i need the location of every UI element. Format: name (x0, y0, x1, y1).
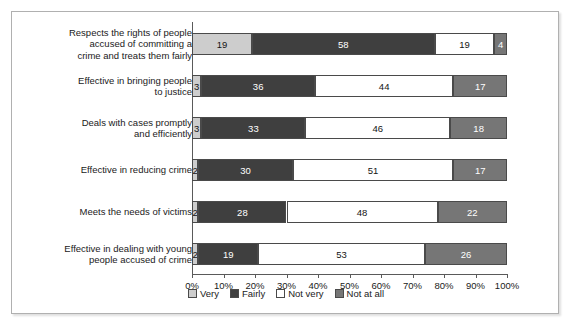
chart-frame: Respects the rights of people accused of… (11, 11, 559, 314)
x-axis-tick (255, 274, 256, 278)
bar-value-label: 2 (193, 165, 198, 176)
bar-segment: 22 (438, 201, 507, 223)
bar-value-label: 4 (498, 39, 503, 50)
legend-swatch-icon (335, 289, 344, 298)
legend-label: Fairly (242, 288, 265, 299)
bar-segment: 51 (293, 159, 454, 181)
bar-segment: 28 (198, 201, 286, 223)
category-label: Effective in dealing with young people a… (26, 243, 192, 266)
bar-row: 2284822 (192, 201, 507, 223)
bar-segment: 3 (192, 75, 201, 97)
bar-segment: 36 (201, 75, 314, 97)
bar-value-label: 44 (379, 81, 390, 92)
bar-value-label: 28 (237, 207, 248, 218)
bar-row: 2195326 (192, 243, 507, 265)
bar-value-label: 3 (194, 81, 199, 92)
bar-row: 1958194 (192, 33, 507, 55)
bar-value-label: 17 (475, 81, 486, 92)
bar-value-label: 22 (467, 207, 478, 218)
category-label: Respects the rights of people accused of… (26, 27, 192, 62)
category-label: Effective in bringing people to justice (26, 75, 192, 98)
bar-segment: 30 (198, 159, 293, 181)
legend-swatch-icon (188, 289, 197, 298)
bar-row: 3364417 (192, 75, 507, 97)
legend-item[interactable]: Fairly (230, 288, 265, 299)
bar-segment: 53 (258, 243, 425, 265)
chart-legend: VeryFairlyNot veryNot at all (12, 288, 560, 299)
legend-label: Not very (288, 288, 323, 299)
bar-segment: 44 (315, 75, 454, 97)
bar-value-label: 53 (336, 249, 347, 260)
bar-value-label: 30 (240, 165, 251, 176)
bar-value-label: 33 (248, 123, 259, 134)
bar-value-label: 51 (368, 165, 379, 176)
category-label: Deals with cases promptly and efficientl… (26, 117, 192, 140)
bar-segment: 58 (252, 33, 435, 55)
x-axis-tick (381, 274, 382, 278)
x-axis-tick (507, 274, 508, 278)
bar-value-label: 26 (461, 249, 472, 260)
bar-segment: 19 (198, 243, 258, 265)
bar-value-label: 48 (357, 207, 368, 218)
legend-item[interactable]: Not at all (335, 288, 385, 299)
chart-axes: 0%10%20%30%40%50%60%70%80%90%100% 195819… (192, 22, 507, 274)
category-label: Effective in reducing crime (26, 164, 192, 176)
bar-value-label: 19 (217, 39, 228, 50)
x-axis-tick (192, 274, 193, 278)
bar-value-label: 2 (193, 207, 198, 218)
bar-segment: 46 (305, 117, 450, 139)
x-axis-tick (444, 274, 445, 278)
bar-segment: 19 (435, 33, 495, 55)
bar-segment: 33 (201, 117, 305, 139)
bar-segment: 48 (287, 201, 438, 223)
bar-segment: 17 (453, 159, 507, 181)
bar-segment: 3 (192, 117, 201, 139)
bar-value-label: 36 (253, 81, 264, 92)
bar-value-label: 18 (473, 123, 484, 134)
x-axis-tick (476, 274, 477, 278)
legend-label: Not at all (347, 288, 385, 299)
x-axis-tick (413, 274, 414, 278)
legend-swatch-icon (276, 289, 285, 298)
bar-value-label: 2 (193, 249, 198, 260)
legend-item[interactable]: Very (188, 288, 219, 299)
bar-value-label: 46 (373, 123, 384, 134)
x-axis-tick (350, 274, 351, 278)
bar-segment: 4 (494, 33, 507, 55)
bar-value-label: 19 (223, 249, 234, 260)
bar-segment: 26 (425, 243, 507, 265)
bar-row: 2305117 (192, 159, 507, 181)
bar-value-label: 3 (194, 123, 199, 134)
category-axis-labels: Respects the rights of people accused of… (26, 22, 192, 274)
legend-item[interactable]: Not very (276, 288, 323, 299)
x-axis-tick (287, 274, 288, 278)
bar-value-label: 17 (475, 165, 486, 176)
bar-value-label: 19 (459, 39, 470, 50)
bar-row: 3334618 (192, 117, 507, 139)
chart-plot-area: Respects the rights of people accused of… (12, 12, 560, 315)
x-axis-tick (318, 274, 319, 278)
legend-swatch-icon (230, 289, 239, 298)
category-label: Meets the needs of victims (26, 206, 192, 218)
x-axis-tick (224, 274, 225, 278)
y-axis-line (192, 22, 193, 274)
bar-segment: 17 (453, 75, 507, 97)
bar-segment: 19 (192, 33, 252, 55)
bar-value-label: 58 (338, 39, 349, 50)
legend-label: Very (200, 288, 219, 299)
bar-segment: 18 (450, 117, 507, 139)
